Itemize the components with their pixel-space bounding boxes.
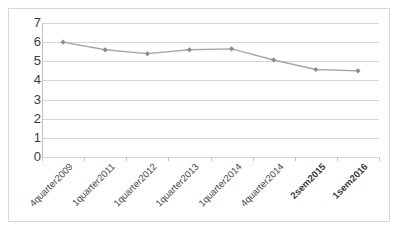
- y-axis-tick-label: 3: [27, 93, 41, 106]
- chart-frame: 01234567 4quarter20091quarter20111quarte…: [8, 8, 390, 222]
- y-axis-tick-label: 6: [27, 35, 41, 48]
- x-axis-tick-mark: [337, 157, 338, 161]
- y-axis-tick-label: 1: [27, 131, 41, 144]
- data-point-marker: [145, 51, 150, 56]
- series-markers: [60, 40, 360, 74]
- y-axis-tick-label: 2: [27, 112, 41, 125]
- series-line: [63, 42, 358, 71]
- x-axis-tick-mark: [84, 157, 85, 161]
- x-axis-tick-label: 1quarter2012: [111, 161, 159, 209]
- data-point-marker: [229, 46, 234, 51]
- y-axis-tick-label: 5: [27, 54, 41, 67]
- data-point-marker: [60, 40, 65, 45]
- data-point-marker: [271, 57, 276, 62]
- x-axis-tick-label: 1quarter2014: [196, 161, 244, 209]
- x-axis-tick-mark: [168, 157, 169, 161]
- x-axis-tick-mark: [42, 157, 43, 161]
- x-axis-tick-label: 2sem2015: [288, 161, 328, 201]
- x-axis-tick-label: 1sem2016: [330, 161, 370, 201]
- x-axis-tick-label: 4quarter2014: [238, 161, 286, 209]
- x-axis-tick-label: 1quarter2011: [70, 161, 117, 208]
- chart-plot-area: 01234567 4quarter20091quarter20111quarte…: [9, 9, 391, 223]
- y-axis-tick-label: 7: [27, 16, 41, 29]
- y-axis-tick-label: 0: [27, 150, 41, 163]
- data-point-marker: [103, 47, 108, 52]
- y-axis-tick-label: 4: [27, 73, 41, 86]
- x-axis-tick-mark: [253, 157, 254, 161]
- data-point-marker: [187, 47, 192, 52]
- x-axis-tick-labels: 4quarter20091quarter20111quarter20121qua…: [42, 157, 379, 223]
- x-axis-tick-mark: [126, 157, 127, 161]
- data-point-marker: [313, 67, 318, 72]
- x-axis-tick-mark: [211, 157, 212, 161]
- x-axis-tick-mark: [379, 157, 380, 161]
- x-axis-tick-mark: [295, 157, 296, 161]
- x-axis-tick-label: 1quarter2013: [153, 161, 201, 209]
- data-point-marker: [355, 68, 360, 73]
